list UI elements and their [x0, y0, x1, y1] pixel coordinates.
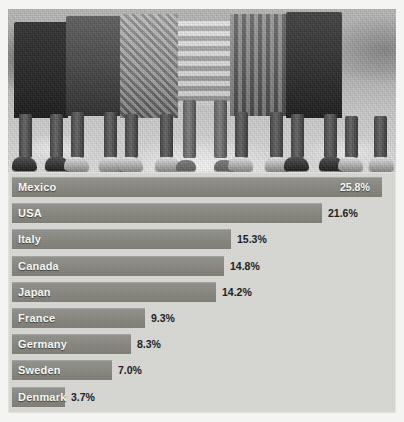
- bar-value-label: 7.0%: [118, 364, 142, 376]
- bar-row: Denmark3.7%: [12, 387, 392, 407]
- bar-category-label: France: [18, 312, 55, 324]
- bar-value-label: 3.7%: [71, 391, 95, 403]
- bar-row: Japan14.2%: [12, 282, 392, 302]
- bar: [12, 177, 382, 197]
- figure-container: Mexico25.8%USA21.6%Italy15.3%Canada14.8%…: [0, 0, 404, 422]
- bar-row: Mexico25.8%: [12, 177, 392, 197]
- bar: [12, 229, 231, 249]
- bar-category-label: Sweden: [18, 364, 61, 376]
- bar-value-label: 21.6%: [328, 207, 358, 219]
- bar-row: USA21.6%: [12, 203, 392, 223]
- bar-value-label: 14.2%: [222, 286, 252, 298]
- bar-category-label: Denmark: [18, 391, 66, 403]
- bar-category-label: Mexico: [18, 181, 57, 193]
- bar-category-label: Japan: [18, 286, 51, 298]
- bar: [12, 203, 322, 223]
- bar-category-label: Italy: [18, 233, 41, 245]
- bar-row: Italy15.3%: [12, 229, 392, 249]
- bar-row: Germany8.3%: [12, 334, 392, 354]
- bar-value-label: 14.8%: [230, 260, 260, 272]
- bar-category-label: Canada: [18, 260, 59, 272]
- bar-row: France9.3%: [12, 308, 392, 328]
- bar-value-label: 9.3%: [151, 312, 175, 324]
- bar-category-label: Germany: [18, 338, 67, 350]
- bar-value-label: 8.3%: [137, 338, 161, 350]
- bar-chart: Mexico25.8%USA21.6%Italy15.3%Canada14.8%…: [8, 172, 396, 413]
- bar-row: Canada14.8%: [12, 256, 392, 276]
- bar-category-label: USA: [18, 207, 42, 219]
- photo-grain-overlay: [8, 9, 396, 172]
- children-legs-photo: [8, 9, 396, 172]
- bar-value-label: 25.8%: [340, 181, 370, 193]
- bar-row: Sweden7.0%: [12, 360, 392, 380]
- bar-value-label: 15.3%: [237, 233, 267, 245]
